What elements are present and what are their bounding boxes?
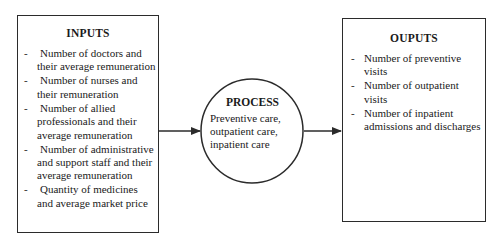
inputs-item: - Number of allied professionals and the… bbox=[22, 102, 156, 142]
outputs-item: - Number of outpatient visits bbox=[349, 79, 483, 106]
inputs-item-text: Number of nurses and their remuneration bbox=[37, 74, 156, 101]
bullet-dash: - bbox=[351, 107, 355, 120]
bullet-dash: - bbox=[24, 183, 28, 196]
outputs-list: - Number of preventive visits - Number o… bbox=[349, 52, 483, 134]
bullet-dash: - bbox=[351, 52, 355, 65]
outputs-title: OUPUTS bbox=[343, 32, 485, 44]
bullet-dash: - bbox=[24, 102, 28, 115]
outputs-box: OUPUTS - Number of preventive visits - N… bbox=[342, 18, 486, 222]
bullet-dash: - bbox=[24, 47, 28, 60]
outputs-item: - Number of preventive visits bbox=[349, 52, 483, 79]
inputs-item-text: Number of allied professionals and their… bbox=[37, 102, 156, 142]
inputs-box: INPUTS - Number of doctors and their ave… bbox=[17, 15, 159, 233]
bullet-dash: - bbox=[351, 79, 355, 92]
bullet-dash: - bbox=[24, 74, 28, 87]
inputs-item-text: Number of doctors and their average remu… bbox=[37, 47, 156, 74]
inputs-item: - Number of nurses and their remuneratio… bbox=[22, 74, 156, 101]
process-title: PROCESS bbox=[201, 96, 304, 108]
inputs-item: - Number of doctors and their average re… bbox=[22, 47, 156, 74]
outputs-item-text: Number of outpatient visits bbox=[364, 79, 483, 106]
inputs-title: INPUTS bbox=[18, 27, 158, 39]
inputs-list: - Number of doctors and their average re… bbox=[22, 47, 156, 211]
inputs-item: - Quantity of medicines and average mark… bbox=[22, 183, 156, 210]
inputs-item-text: Quantity of medicines and average market… bbox=[37, 183, 156, 210]
inputs-item: - Number of administrative and support s… bbox=[22, 143, 156, 183]
outputs-item-text: Number of inpatient admissions and disch… bbox=[364, 107, 483, 134]
outputs-item: - Number of inpatient admissions and dis… bbox=[349, 107, 483, 134]
process-description: Preventive care, outpatient care, inpati… bbox=[210, 112, 300, 151]
outputs-item-text: Number of preventive visits bbox=[364, 52, 483, 79]
bullet-dash: - bbox=[24, 143, 28, 156]
inputs-item-text: Number of administrative and support sta… bbox=[37, 143, 156, 183]
